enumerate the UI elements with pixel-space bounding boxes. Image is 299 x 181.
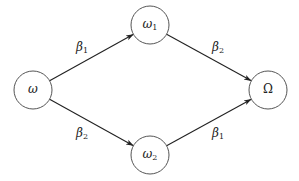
- edge-subscript: 1: [219, 132, 224, 141]
- edge-arrow-omega2-Omega: [167, 99, 251, 145]
- edge-symbol: β: [76, 126, 83, 140]
- node-label-omega2: ω2: [143, 148, 158, 162]
- edge-subscript: 1: [83, 46, 88, 55]
- edge-label-omega-omega2: β2: [76, 127, 88, 141]
- node-symbol: ω: [28, 82, 38, 96]
- edge-arrow-omega-omega2: [50, 99, 133, 145]
- node-label-omega: ω: [28, 83, 38, 97]
- node-symbol: ω: [143, 147, 153, 161]
- edge-subscript: 2: [83, 132, 88, 141]
- node-symbol: ω: [143, 17, 153, 31]
- edge-symbol: β: [212, 126, 219, 140]
- edge-symbol: β: [76, 40, 83, 54]
- edge-label-omega2-Omega: β1: [212, 127, 224, 141]
- edge-symbol: β: [212, 40, 219, 54]
- edge-arrow-omega-omega1: [50, 35, 133, 81]
- node-label-omega1: ω1: [143, 18, 158, 32]
- node-symbol: Ω: [263, 82, 273, 96]
- edge-label-omega-omega1: β1: [76, 41, 88, 55]
- node-label-capital-omega: Ω: [263, 83, 273, 97]
- diagram-canvas: ω ω1 ω2 Ω β1 β2 β2 β1: [0, 0, 299, 181]
- node-subscript: 2: [152, 153, 157, 162]
- node-subscript: 1: [152, 23, 157, 32]
- edge-arrow-omega1-Omega: [167, 34, 251, 80]
- edge-subscript: 2: [219, 46, 224, 55]
- edge-label-omega1-Omega: β2: [212, 41, 224, 55]
